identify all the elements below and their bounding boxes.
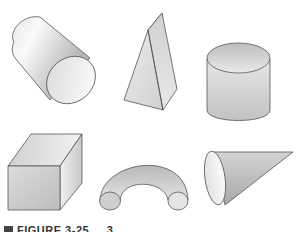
caption-square-bullet-icon	[4, 226, 13, 232]
tilted-cylinder-shape	[12, 17, 105, 114]
geometric-solids-figure	[0, 0, 301, 232]
pyramid-shape	[124, 13, 177, 110]
caption-label: FIGURE 3-25	[17, 224, 89, 232]
figure-caption: FIGURE 3-25 3	[4, 223, 113, 232]
cone-shape	[201, 150, 293, 206]
cube-shape	[8, 134, 82, 210]
caption-suffix: 3	[107, 224, 114, 232]
half-torus-shape	[100, 165, 189, 210]
upright-cylinder-shape	[207, 43, 270, 121]
